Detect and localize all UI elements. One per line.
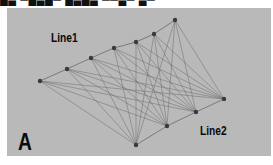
edge [136, 42, 196, 112]
node [89, 56, 93, 60]
node [173, 18, 177, 22]
node [112, 46, 116, 50]
edge [154, 34, 167, 126]
edge [40, 81, 224, 99]
edge [91, 58, 167, 126]
chain-edge [196, 99, 224, 112]
edge [40, 81, 167, 126]
edge [136, 34, 154, 145]
chain-edge [67, 58, 91, 69]
node [222, 97, 226, 101]
chain-edge [136, 34, 154, 42]
chain-edge [136, 126, 167, 145]
node [152, 32, 156, 36]
edge [154, 34, 224, 99]
edge [91, 58, 196, 112]
chain-edge [40, 69, 67, 81]
node [134, 40, 138, 44]
node [165, 124, 169, 128]
chain-edge [154, 20, 175, 34]
edge [91, 58, 224, 99]
chain-edge [114, 42, 136, 48]
edge [136, 42, 167, 126]
node [134, 143, 138, 147]
node [194, 110, 198, 114]
chain-edge [91, 48, 114, 58]
edge [114, 48, 224, 99]
edge [114, 48, 167, 126]
chain-edge [167, 112, 196, 126]
line2-label: Line2 [200, 124, 227, 138]
panel-letter-label: A [18, 128, 32, 156]
bipartite-network-diagram [0, 0, 273, 165]
node [65, 67, 69, 71]
line1-label: Line1 [51, 31, 78, 45]
node [38, 79, 42, 83]
